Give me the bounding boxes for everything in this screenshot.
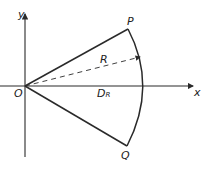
distance-label: DR xyxy=(97,88,110,99)
point-q-label: Q xyxy=(121,150,130,161)
sector-diagram: y x O P Q R DR xyxy=(0,0,206,171)
x-axis-label: x xyxy=(194,87,201,98)
origin-label: O xyxy=(14,88,23,99)
diagram-canvas xyxy=(0,0,206,171)
radius-oq xyxy=(25,86,127,146)
y-axis-label: y xyxy=(18,9,25,20)
radius-label: R xyxy=(100,54,108,65)
distance-label-subscript: R xyxy=(105,91,110,99)
radius-r-dashed xyxy=(25,57,140,86)
point-p-label: P xyxy=(127,16,134,27)
radius-op xyxy=(25,29,128,86)
arc-pq xyxy=(127,29,143,146)
